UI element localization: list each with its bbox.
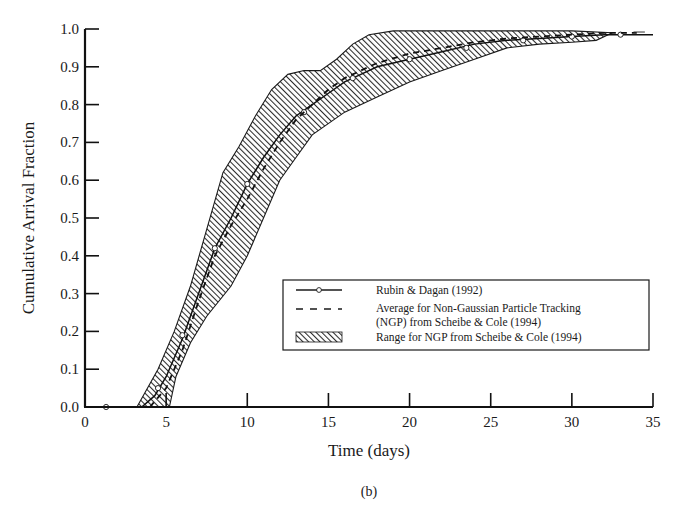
x-axis-label: Time (days) — [328, 441, 410, 460]
x-tick-label: 20 — [402, 414, 417, 430]
legend-circle-marker-icon — [317, 288, 322, 293]
y-tick-label: 0.4 — [60, 248, 79, 264]
x-tick-label: 5 — [162, 414, 170, 430]
y-tick-label: 0.8 — [60, 97, 79, 113]
y-tick-label: 0.2 — [60, 323, 79, 339]
rubin-dagan-marker — [350, 76, 355, 81]
rubin-dagan-marker — [407, 57, 412, 62]
y-axis-label: Cumulative Arrival Fraction — [19, 121, 38, 314]
rubin-dagan-marker — [245, 181, 250, 186]
rubin-dagan-marker — [464, 45, 469, 50]
y-tick-label: 0.3 — [60, 286, 79, 302]
y-tick-label: 0.5 — [60, 210, 79, 226]
x-tick-label: 25 — [483, 414, 498, 430]
y-tick-label: 0.7 — [60, 134, 79, 150]
legend-hatched-swatch-icon — [296, 332, 342, 342]
x-tick-label: 10 — [240, 414, 255, 430]
y-tick-label: 1.0 — [60, 21, 79, 37]
legend-label-continued: (NGP) from Scheibe & Cole (1994) — [376, 316, 541, 329]
rubin-dagan-marker — [155, 386, 160, 391]
y-tick-label: 0.9 — [60, 59, 79, 75]
x-tick-label: 0 — [81, 414, 89, 430]
legend: Rubin & Dagan (1992) Average for Non-Gau… — [283, 280, 649, 350]
figure-caption: (b) — [361, 484, 378, 500]
x-tick-label: 15 — [321, 414, 336, 430]
chart: 0.00.10.20.30.40.50.60.70.80.91.00510152… — [0, 0, 678, 512]
rubin-dagan-marker — [180, 333, 185, 338]
rubin-dagan-marker — [212, 246, 217, 251]
y-tick-label: 0.0 — [60, 399, 79, 415]
x-tick-label: 30 — [564, 414, 579, 430]
x-tick-label: 35 — [646, 414, 661, 430]
y-tick-label: 0.6 — [60, 172, 79, 188]
legend-item-ngp-range: Range for NGP from Scheibe & Cole (1994) — [296, 331, 582, 344]
legend-label: Average for Non-Gaussian Particle Tracki… — [376, 302, 581, 315]
legend-label: Range for NGP from Scheibe & Cole (1994) — [376, 331, 582, 344]
legend-label: Rubin & Dagan (1992) — [376, 284, 483, 297]
y-tick-label: 0.1 — [60, 361, 79, 377]
rubin-dagan-marker — [521, 38, 526, 43]
